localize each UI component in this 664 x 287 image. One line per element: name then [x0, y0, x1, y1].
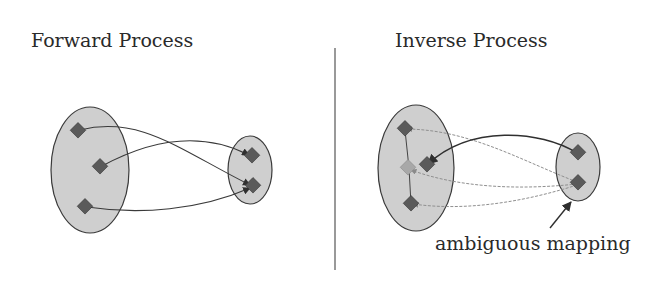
annotation-pointer-arrow — [550, 202, 571, 228]
forward-process-title: Forward Process — [31, 29, 193, 51]
domain-set — [51, 107, 129, 233]
forward-process-panel: Forward Process — [31, 29, 272, 233]
inverse-process-panel: Inverse Process ambiguous mapping — [378, 29, 631, 254]
ambiguous-mapping-label: ambiguous mapping — [435, 232, 631, 254]
codomain-set — [556, 133, 600, 201]
domain-set — [378, 105, 454, 231]
diagram-canvas: Forward Process Inverse Process — [0, 0, 664, 287]
inverse-process-title: Inverse Process — [395, 29, 548, 51]
